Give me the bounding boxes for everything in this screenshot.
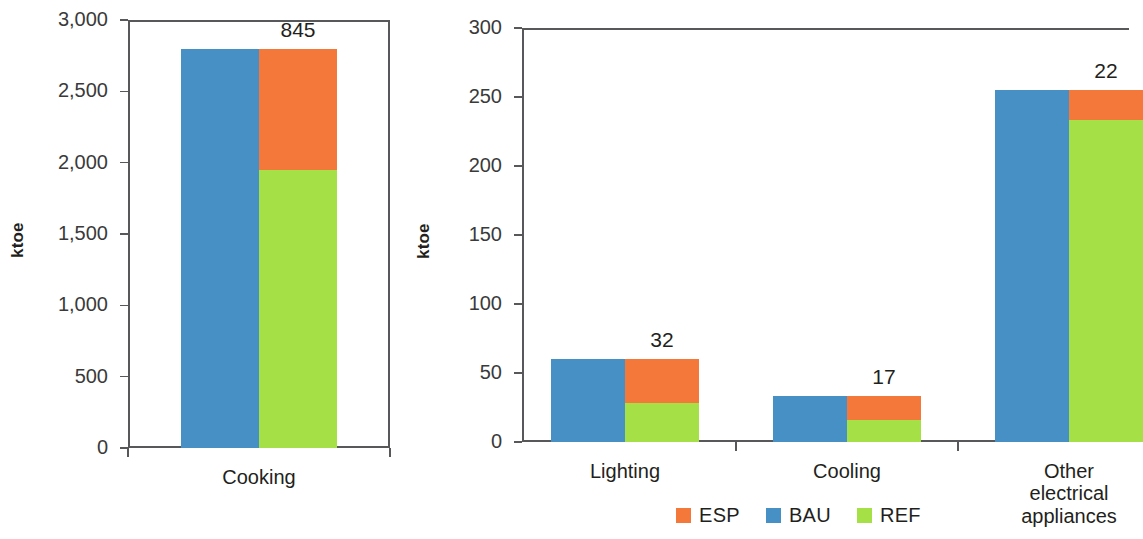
legend-label: REF — [880, 504, 921, 527]
x-axis-category-label: Cooling — [813, 460, 881, 482]
bar-segment-ref — [847, 420, 921, 442]
bar-segment-esp — [847, 396, 921, 419]
y-tick-label: 250 — [469, 86, 502, 106]
y-tick-label: 2,500 — [58, 80, 108, 100]
bar-segment-bau — [773, 396, 847, 442]
x-axis-category-label: Other electrical appliances — [1021, 460, 1117, 527]
y-tick-mark — [120, 233, 128, 235]
y-tick-mark — [514, 96, 522, 98]
bar-value-label: 845 — [280, 18, 315, 42]
x-axis-category-label: Cooking — [222, 466, 295, 488]
bar-segment-bau — [995, 90, 1069, 442]
y-tick-label: 500 — [75, 366, 108, 386]
bar-segment-bau — [181, 49, 259, 448]
bar-segment-bau — [551, 359, 625, 442]
y-tick-mark — [514, 303, 522, 305]
stacked-bar-group — [181, 49, 337, 448]
y-axis-tick-labels-right: 050100150200250300 — [410, 0, 502, 539]
plot-border-top-left-chart — [128, 20, 390, 22]
legend-item-esp[interactable]: ESP — [676, 504, 740, 527]
x-tick-mark — [127, 448, 129, 457]
y-tick-label: 0 — [97, 437, 108, 457]
bar-value-label: 32 — [650, 328, 673, 352]
y-tick-label: 300 — [469, 17, 502, 37]
y-tick-label: 2,000 — [58, 152, 108, 172]
legend-item-bau[interactable]: BAU — [766, 504, 831, 527]
y-tick-mark — [514, 165, 522, 167]
bar-segment-ref — [259, 170, 337, 448]
y-tick-label: 200 — [469, 155, 502, 175]
x-axis-category-label: Lighting — [590, 460, 660, 482]
y-tick-label: 150 — [469, 224, 502, 244]
bar-segment-esp — [1069, 90, 1143, 120]
y-axis-tick-labels-left: 05001,0001,5002,0002,5003,000 — [0, 0, 108, 539]
stacked-bar-group — [551, 359, 699, 442]
y-tick-mark — [120, 91, 128, 93]
bar-segment-ref — [1069, 120, 1143, 442]
plot-border-top-right-chart — [522, 28, 1129, 30]
legend-swatch-icon — [676, 508, 691, 523]
legend: ESPBAUREF — [676, 504, 921, 527]
bar-segment-ref — [625, 403, 699, 442]
y-tick-mark — [514, 441, 522, 443]
bar-segment-esp — [259, 49, 337, 170]
y-tick-label: 0 — [491, 431, 502, 451]
y-tick-mark — [514, 234, 522, 236]
bar-segment-esp — [625, 359, 699, 403]
legend-swatch-icon — [857, 508, 872, 523]
y-tick-mark — [120, 447, 128, 449]
plot-border-left-right-chart — [522, 28, 524, 442]
stacked-bar-group — [995, 90, 1143, 442]
y-tick-mark — [120, 162, 128, 164]
x-tick-mark — [389, 448, 391, 457]
y-tick-label: 50 — [480, 362, 502, 382]
y-tick-mark — [120, 376, 128, 378]
legend-label: ESP — [699, 504, 740, 527]
y-tick-label: 1,000 — [58, 294, 108, 314]
legend-swatch-icon — [766, 508, 781, 523]
y-tick-mark — [514, 27, 522, 29]
bar-value-label: 17 — [872, 365, 895, 389]
chart-panel-cooking: ktoe 05001,0001,5002,0002,5003,000 845 C… — [0, 0, 400, 539]
x-tick-mark — [957, 442, 959, 451]
y-tick-label: 3,000 — [58, 9, 108, 29]
x-tick-mark — [735, 442, 737, 451]
stacked-bar-group — [773, 396, 921, 442]
y-tick-mark — [514, 372, 522, 374]
y-tick-mark — [120, 305, 128, 307]
y-tick-label: 100 — [469, 293, 502, 313]
y-tick-mark — [120, 19, 128, 21]
y-tick-label: 1,500 — [58, 223, 108, 243]
legend-item-ref[interactable]: REF — [857, 504, 921, 527]
bar-value-label: 22 — [1094, 59, 1117, 83]
legend-label: BAU — [789, 504, 831, 527]
plot-border-left-left-chart — [128, 20, 130, 448]
plot-border-right-left-chart — [388, 20, 390, 448]
chart-panel-electrical-end-uses: ktoe 050100150200250300 321722 LightingC… — [410, 0, 1129, 539]
